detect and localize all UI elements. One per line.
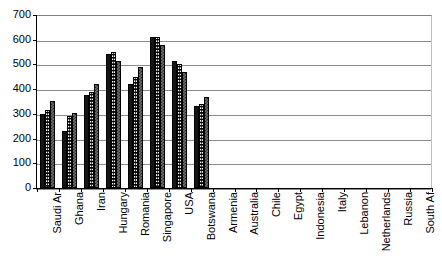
x-tick-mark xyxy=(256,188,257,192)
bar xyxy=(116,61,121,188)
x-tick-mark xyxy=(322,188,323,192)
x-tick-mark xyxy=(213,188,214,192)
x-tick-mark xyxy=(147,188,148,192)
x-tick-mark xyxy=(388,188,389,192)
y-tick-label-300: 300 xyxy=(0,108,31,119)
x-axis-label: Singapore xyxy=(162,192,173,242)
bar xyxy=(50,101,55,188)
bar xyxy=(160,45,165,188)
x-axis-label: Indonesia xyxy=(315,192,326,240)
x-axis-label: Egypt xyxy=(293,192,304,220)
x-axis-label: Australia xyxy=(249,192,260,235)
x-axis-category-labels: Saudi ArGhanaIranHungaryRomaniaSingapore… xyxy=(37,192,432,265)
chart-screenshot: 0100200300400500600700 Saudi ArGhanaIran… xyxy=(0,0,442,265)
x-tick-mark xyxy=(125,188,126,192)
x-tick-mark xyxy=(278,188,279,192)
y-tick-label-100: 100 xyxy=(0,157,31,168)
x-tick-mark xyxy=(366,188,367,192)
x-axis-label: Lebanon xyxy=(359,192,370,235)
x-axis-label: USA xyxy=(184,192,195,215)
x-axis-label: Botswana xyxy=(206,192,217,240)
y-tick-label-400: 400 xyxy=(0,83,31,94)
x-axis-label: Iran xyxy=(96,192,107,211)
x-tick-mark xyxy=(81,188,82,192)
bar xyxy=(182,72,187,188)
y-tick-label-700: 700 xyxy=(0,9,31,20)
y-tick-label-600: 600 xyxy=(0,34,31,45)
y-tick-label-500: 500 xyxy=(0,58,31,69)
x-tick-mark xyxy=(410,188,411,192)
x-axis-label: Ghana xyxy=(74,192,85,225)
bar xyxy=(138,67,143,188)
x-axis-label: Hungary xyxy=(118,192,129,234)
x-tick-mark xyxy=(59,188,60,192)
bar xyxy=(204,97,209,188)
x-axis-label: Italy xyxy=(337,192,348,212)
x-tick-mark xyxy=(37,188,38,192)
y-tick-label-0: 0 xyxy=(0,182,31,193)
x-tick-mark xyxy=(300,188,301,192)
x-axis-label: Armenia xyxy=(228,192,239,233)
x-axis-label: Romania xyxy=(140,192,151,236)
x-axis-label: Russia xyxy=(403,192,414,226)
x-tick-mark xyxy=(344,188,345,192)
x-axis-label: Saudi Ar xyxy=(52,192,63,234)
x-tick-mark xyxy=(103,188,104,192)
bar xyxy=(72,113,77,188)
gridline-0 xyxy=(36,189,431,190)
x-axis-label: Chile xyxy=(271,192,282,217)
x-tick-mark xyxy=(432,188,433,192)
bars-layer xyxy=(37,15,432,188)
y-tick-label-200: 200 xyxy=(0,133,31,144)
x-tick-mark xyxy=(235,188,236,192)
x-axis-label: Netherlands xyxy=(381,192,392,251)
x-axis-label: South Af xyxy=(425,192,436,234)
bar xyxy=(94,84,99,188)
x-tick-mark xyxy=(191,188,192,192)
x-tick-mark xyxy=(169,188,170,192)
